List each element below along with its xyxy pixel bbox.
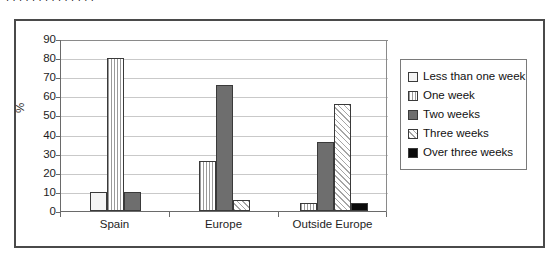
bar-spain-two-weeks (124, 192, 141, 211)
legend-swatch-three-weeks (408, 129, 418, 139)
legend-label-two-weeks: Two weeks (423, 109, 480, 121)
legend-swatch-one-week (408, 91, 418, 101)
legend-swatch-over-three-weeks (408, 148, 418, 158)
bar-outside-europe-one-week (300, 203, 317, 211)
legend-label-three-weeks: Three weeks (423, 128, 489, 140)
cut-off-caption-text: ı ı ı ı ı ı ı ı ı ı ı ı ı ı (6, 0, 94, 3)
bar-europe-three-weeks (233, 200, 250, 211)
y-tick-label-0: 0 (34, 206, 56, 218)
x-tick-mark-1 (169, 212, 170, 217)
figure-frame: % 0102030405060708090 SpainEuropeOutside… (14, 19, 545, 248)
bar-outside-europe-over-three-weeks (351, 203, 368, 211)
cut-off-caption-above: ı ı ı ı ı ı ı ı ı ı ı ı ı ı (0, 0, 557, 14)
legend-item-two-weeks[interactable]: Two weeks (408, 105, 518, 124)
bar-outside-europe-two-weeks (317, 142, 334, 211)
plot-wrap: SpainEuropeOutside Europe (60, 40, 387, 212)
y-tick-label-20: 20 (34, 168, 56, 180)
legend-item-one-week[interactable]: One week (408, 86, 518, 105)
y-tick-label-70: 70 (34, 72, 56, 84)
y-tick-label-90: 90 (34, 34, 56, 46)
x-category-label-europe: Europe (205, 218, 242, 230)
bar-europe-two-weeks (216, 85, 233, 211)
y-tick-label-60: 60 (34, 92, 56, 104)
bar-outside-europe-three-weeks (334, 104, 351, 211)
y-tick-label-30: 30 (34, 149, 56, 161)
legend-item-over-three-weeks[interactable]: Over three weeks (408, 143, 518, 162)
x-tick-mark-0 (60, 212, 61, 217)
bar-europe-one-week (199, 161, 216, 211)
y-tick-label-50: 50 (34, 111, 56, 123)
bar-group-europe (170, 39, 279, 211)
legend-label-less-than-one-week: Less than one week (423, 71, 525, 83)
legend-label-over-three-weeks: Over three weeks (423, 147, 513, 159)
x-category-label-spain: Spain (100, 218, 129, 230)
bar-chart: % 0102030405060708090 SpainEuropeOutside… (16, 21, 543, 246)
legend-swatch-two-weeks (408, 110, 418, 120)
x-tick-mark-3 (386, 212, 387, 217)
bar-group-outside-europe (279, 39, 388, 211)
bar-spain-one-week (107, 58, 124, 211)
y-tick-label-40: 40 (34, 130, 56, 142)
bar-spain-less-than-one-week (90, 192, 107, 211)
y-axis-title: % (14, 103, 26, 113)
legend: Less than one weekOne weekTwo weeksThree… (400, 59, 527, 170)
x-tick-mark-2 (278, 212, 279, 217)
legend-label-one-week: One week (423, 90, 475, 102)
legend-item-three-weeks[interactable]: Three weeks (408, 124, 518, 143)
y-tick-label-10: 10 (34, 187, 56, 199)
bar-group-spain (61, 39, 170, 211)
legend-swatch-less-than-one-week (408, 72, 418, 82)
legend-item-less-than-one-week[interactable]: Less than one week (408, 67, 518, 86)
x-category-label-outside-europe: Outside Europe (293, 218, 373, 230)
plot-area (60, 40, 387, 212)
y-axis-tick-labels: 0102030405060708090 (32, 40, 56, 212)
y-tick-label-80: 80 (34, 53, 56, 65)
